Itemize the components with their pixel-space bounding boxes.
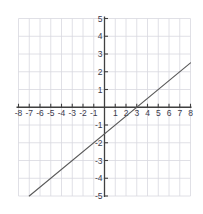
plotted-line [29,63,190,196]
svg-text:3: 3 [134,108,139,118]
svg-text:4: 4 [98,31,103,41]
svg-text:-5: -5 [95,191,103,201]
svg-text:1: 1 [113,108,118,118]
svg-text:-7: -7 [25,108,33,118]
svg-text:-3: -3 [68,108,76,118]
svg-text:3: 3 [98,49,103,59]
svg-text:-8: -8 [15,108,23,118]
svg-text:7: 7 [177,108,182,118]
coordinate-plane-graph: -8-7-6-5-4-3-2-11234567854321-1-2-3-4-5 [0,0,203,214]
svg-text:-5: -5 [47,108,55,118]
svg-text:-6: -6 [36,108,44,118]
axis-lines [17,17,192,198]
svg-text:-1: -1 [95,120,103,130]
svg-text:8: 8 [188,108,193,118]
svg-text:1: 1 [98,85,103,95]
svg-text:-2: -2 [79,108,87,118]
svg-text:-1: -1 [90,108,98,118]
svg-text:-4: -4 [58,108,66,118]
svg-text:2: 2 [98,67,103,77]
svg-text:-4: -4 [95,173,103,183]
svg-text:4: 4 [145,108,150,118]
graph-canvas: -8-7-6-5-4-3-2-11234567854321-1-2-3-4-5 [0,0,203,214]
svg-text:-2: -2 [95,138,103,148]
svg-text:-3: -3 [95,156,103,166]
svg-text:5: 5 [156,108,161,118]
svg-text:6: 6 [167,108,172,118]
svg-text:5: 5 [98,14,103,24]
